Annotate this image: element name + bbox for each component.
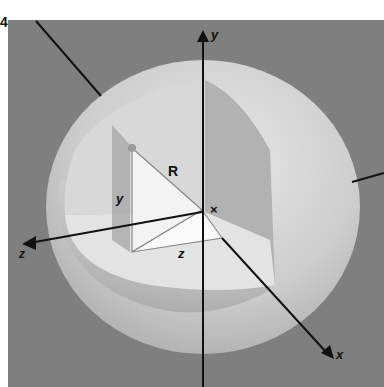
sphere-diagram: y z x R y z × [0, 0, 384, 387]
shaded-rect [112, 125, 130, 252]
point-marker [128, 144, 136, 152]
origin-x-mark: × [210, 202, 218, 217]
horizontal-side-label-z: z [177, 246, 185, 261]
y-axis-label: y [210, 27, 219, 42]
x-axis-label: x [335, 347, 344, 362]
z-axis-label: z [18, 247, 25, 261]
vertical-side-label-y: y [115, 191, 124, 206]
hypotenuse-label-R: R [168, 163, 178, 179]
